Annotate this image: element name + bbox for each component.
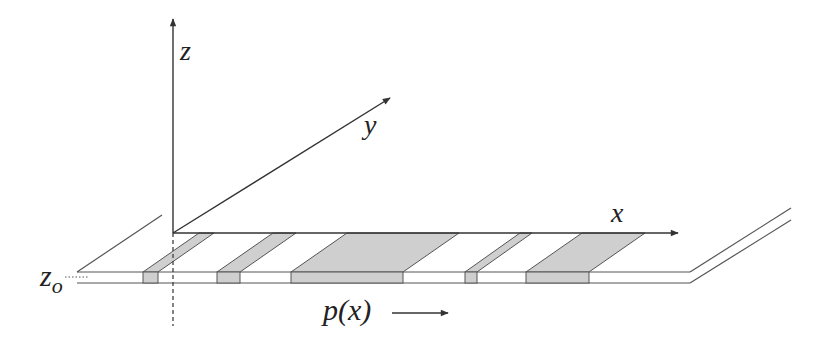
surface-label-subscript: o <box>52 273 63 298</box>
y-axis-label: y <box>361 109 377 140</box>
axes <box>173 19 678 233</box>
stripe-1-top <box>143 233 214 272</box>
z-axis-label: z <box>179 35 191 66</box>
stripe-3-front <box>291 272 403 283</box>
surface-label-base: z <box>39 259 52 292</box>
svg-text:zo: zo <box>39 259 63 298</box>
profile-label-group: p(x) <box>321 293 448 327</box>
y-axis <box>173 98 390 233</box>
stripe-3-top <box>291 233 459 272</box>
stripe-4-top <box>465 233 532 272</box>
profile-label: p(x) <box>321 293 371 327</box>
diagram-canvas: z y x zo p(x) <box>0 0 833 356</box>
surface-height-label: zo <box>39 259 88 298</box>
stripe-2-front <box>217 272 240 283</box>
x-axis-label: x <box>610 197 624 228</box>
stripe-2-top <box>217 233 296 272</box>
stripe-5-front <box>526 272 589 283</box>
stripe-pattern <box>143 233 645 283</box>
stripe-5-top <box>526 233 645 272</box>
stripe-4-front <box>465 272 477 283</box>
stripe-1-front <box>143 272 158 283</box>
